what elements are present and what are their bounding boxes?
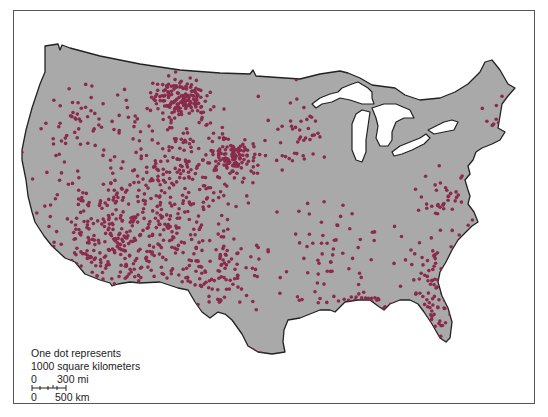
- density-dot: [165, 213, 169, 217]
- density-dot: [212, 191, 216, 195]
- density-dot: [224, 137, 228, 141]
- density-dot: [185, 163, 189, 167]
- density-dot: [226, 228, 230, 232]
- density-dot: [308, 138, 312, 142]
- density-dot: [240, 287, 244, 291]
- density-dot: [139, 276, 143, 280]
- density-dot: [167, 149, 171, 153]
- density-dot: [73, 131, 77, 135]
- density-dot: [202, 208, 206, 212]
- density-dot: [430, 309, 434, 313]
- density-dot: [240, 161, 244, 165]
- density-dot: [150, 177, 154, 181]
- density-dot: [156, 174, 160, 178]
- density-dot: [311, 242, 315, 246]
- density-dot: [158, 183, 162, 187]
- density-dot: [436, 251, 440, 255]
- density-dot: [467, 298, 471, 302]
- density-dot: [97, 241, 101, 245]
- density-dot: [164, 258, 168, 262]
- density-dot: [211, 149, 215, 153]
- density-dot: [61, 268, 65, 272]
- density-dot: [111, 171, 115, 175]
- density-dot: [180, 280, 184, 284]
- density-dot: [306, 202, 310, 206]
- density-dot: [147, 226, 151, 230]
- density-dot: [336, 224, 340, 228]
- density-dot: [452, 295, 456, 299]
- density-dot: [222, 235, 226, 239]
- density-dot: [245, 162, 249, 166]
- density-dot: [189, 101, 193, 105]
- density-dot: [226, 202, 230, 206]
- density-dot: [233, 268, 237, 272]
- density-dot: [63, 160, 67, 164]
- density-dot: [74, 227, 78, 231]
- density-dot: [357, 292, 361, 296]
- density-dot: [103, 240, 107, 244]
- density-dot: [202, 200, 206, 204]
- density-dot: [281, 74, 285, 78]
- density-dot: [204, 187, 208, 191]
- density-dot: [57, 125, 61, 129]
- density-dot: [71, 101, 75, 105]
- density-dot: [221, 126, 225, 130]
- density-dot: [41, 272, 45, 276]
- density-dot: [223, 295, 227, 299]
- density-dot: [90, 84, 94, 88]
- density-dot: [225, 157, 229, 161]
- density-dot: [337, 299, 341, 303]
- density-dot: [116, 245, 120, 249]
- density-dot: [437, 164, 441, 168]
- density-dot: [358, 272, 362, 276]
- density-dot: [226, 218, 230, 222]
- density-dot: [247, 201, 251, 205]
- density-dot: [188, 218, 192, 222]
- density-dot: [107, 198, 111, 202]
- density-dot: [356, 246, 360, 250]
- density-dot: [148, 235, 152, 239]
- density-dot: [102, 182, 106, 186]
- density-dot: [426, 305, 430, 309]
- density-dot: [190, 238, 194, 242]
- density-dot: [139, 130, 143, 134]
- density-dot: [494, 117, 498, 121]
- density-dot: [251, 181, 255, 185]
- density-dot: [149, 109, 153, 113]
- density-dot: [427, 269, 431, 273]
- density-dot: [194, 172, 198, 176]
- density-dot: [180, 240, 184, 244]
- density-dot: [219, 264, 223, 268]
- density-dot: [81, 199, 85, 203]
- density-dot: [178, 176, 182, 180]
- density-dot: [90, 260, 94, 264]
- density-dot: [231, 158, 235, 162]
- density-dot: [160, 189, 164, 193]
- density-dot: [441, 324, 445, 328]
- density-dot: [204, 271, 208, 275]
- density-dot: [169, 118, 173, 122]
- density-dot: [96, 219, 100, 223]
- density-dot: [209, 108, 213, 112]
- density-dot: [355, 302, 359, 306]
- density-dot: [189, 86, 193, 90]
- density-dot: [173, 78, 177, 82]
- density-dot: [136, 200, 140, 204]
- density-dot: [140, 266, 144, 270]
- density-dot: [425, 298, 429, 302]
- density-dot: [170, 100, 174, 104]
- density-dot: [121, 240, 125, 244]
- density-dot: [70, 115, 74, 119]
- density-dot: [438, 206, 442, 210]
- density-dot: [357, 283, 361, 287]
- density-dot: [350, 212, 354, 216]
- density-dot: [107, 218, 111, 222]
- density-dot: [89, 109, 93, 113]
- density-dot: [158, 195, 162, 199]
- density-dot: [475, 275, 479, 279]
- density-dot: [421, 295, 425, 299]
- density-dot: [120, 227, 124, 231]
- density-dot: [84, 83, 88, 87]
- density-dot: [101, 154, 105, 158]
- density-dot: [362, 290, 366, 294]
